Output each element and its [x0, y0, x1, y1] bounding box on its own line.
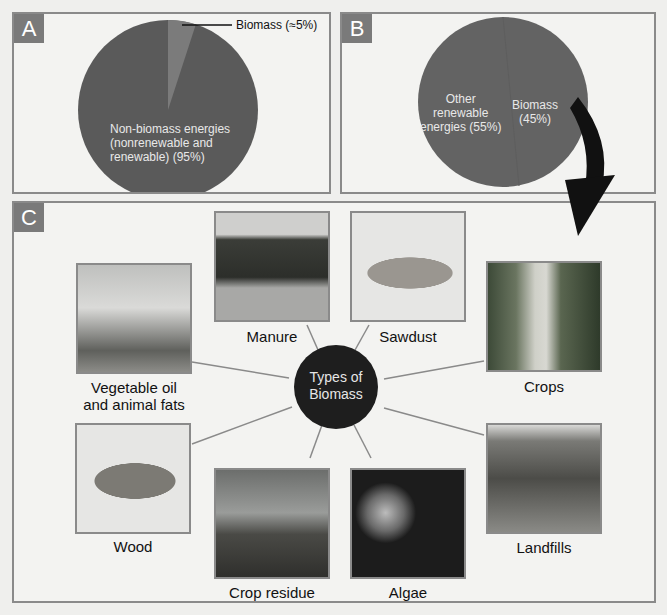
- panel-b: B Other renewable energies (55%) Biomass…: [340, 12, 656, 194]
- label-other-renewable: Other renewable energies (55%): [420, 92, 501, 134]
- photo-manure: [214, 211, 330, 322]
- callout-biomass-a: Biomass (≈5%): [236, 17, 317, 34]
- panel-c: C Types of Biomass Manure Sawdust Crops …: [12, 201, 656, 603]
- pie-chart-a: [14, 14, 329, 192]
- label-vegetable-oil: Vegetable oil and animal fats: [54, 379, 214, 413]
- photo-landfills: [486, 423, 602, 534]
- photo-algae: [350, 468, 466, 579]
- label-non-biomass: Non-biomass energies (nonrenewable and r…: [110, 122, 230, 164]
- photo-sawdust: [350, 211, 466, 322]
- label-sawdust: Sawdust: [350, 328, 466, 345]
- center-node: Types of Biomass: [296, 369, 376, 403]
- photo-crops: [486, 261, 602, 372]
- label-biomass-b: Biomass (45%): [512, 98, 558, 126]
- photo-wood: [75, 423, 191, 534]
- photo-vegetable-oil: [76, 263, 192, 374]
- label-crop-residue: Crop residue: [204, 584, 340, 601]
- label-manure: Manure: [214, 328, 330, 345]
- photo-crop-residue: [214, 468, 330, 579]
- label-algae: Algae: [350, 584, 466, 601]
- label-landfills: Landfills: [486, 539, 602, 556]
- panel-a: A Biomass (≈5%) Non-biomass energies (no…: [12, 12, 331, 194]
- label-crops: Crops: [486, 378, 602, 395]
- label-wood: Wood: [75, 538, 191, 555]
